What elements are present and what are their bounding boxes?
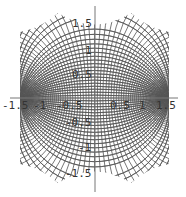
y-tick-label: -1.5: [65, 167, 92, 180]
y-tick-label: 1.5: [72, 17, 92, 30]
y-tick-label: -1: [78, 141, 91, 154]
x-tick-label: 0.5: [110, 99, 130, 112]
x-tick-label: -1.5: [2, 99, 29, 112]
x-tick-label: -1: [33, 99, 46, 112]
x-tick-label: 1: [139, 99, 146, 112]
y-tick-label: 1: [85, 44, 92, 57]
plot-area: -1.5 -1 -0.5 0.5 1 1.5 1.5 1 0.5 -0.5 -1…: [0, 0, 186, 197]
x-tick-label: 1.5: [156, 99, 176, 112]
bipolar-grid-chart: -1.5 -1 -0.5 0.5 1 1.5 1.5 1 0.5 -0.5 -1…: [0, 0, 186, 197]
x-tick-label: -0.5: [56, 99, 83, 112]
y-tick-label: -0.5: [65, 116, 92, 129]
y-tick-label: 0.5: [72, 68, 92, 81]
